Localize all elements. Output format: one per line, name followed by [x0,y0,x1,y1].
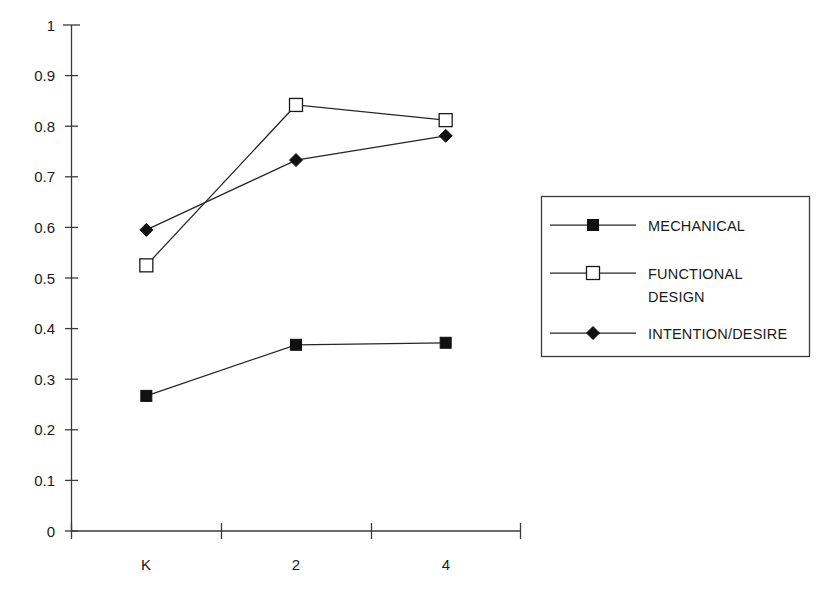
line-chart: 1 0.9 0.8 0.7 0.6 0.5 0.4 0.3 0.2 0.1 0 … [0,0,831,602]
legend-label-mechanical: MECHANICAL [648,218,745,234]
legend-item-intention-desire: INTENTION/DESIRE [550,326,787,342]
data-point-filled-square [141,390,152,401]
series-functional-design-line [146,105,445,265]
y-tick-label: 0.4 [34,320,55,337]
data-point-open-square [290,98,303,111]
x-tick-label: 4 [442,556,450,573]
y-tick-label: 0.5 [34,270,55,287]
x-axis-tick-labels: K 2 4 [141,556,450,573]
legend-label-intention-desire: INTENTION/DESIRE [648,326,787,342]
series-intention-desire [140,129,452,236]
open-square-icon [587,267,600,280]
legend-item-functional-design: FUNCTIONAL DESIGN [550,266,743,305]
legend-label-functional-design-line1: FUNCTIONAL [648,266,743,282]
y-tick-label: 1 [47,17,55,34]
series-intention-desire-line [146,136,445,230]
y-axis-tick-labels: 1 0.9 0.8 0.7 0.6 0.5 0.4 0.3 0.2 0.1 0 [34,17,55,540]
series-functional-design [140,98,452,271]
filled-diamond-icon [587,327,600,340]
y-tick-label: 0.7 [34,168,55,185]
series-mechanical-markers [141,337,451,401]
y-tick-label: 0.6 [34,219,55,236]
y-tick-label: 0.3 [34,371,55,388]
series-intention-desire-markers [140,129,452,236]
y-tick-label: 0.1 [34,472,55,489]
y-tick-label: 0.2 [34,421,55,438]
chart-legend: MECHANICAL FUNCTIONAL DESIGN INTENTION/D… [542,197,810,357]
data-point-open-square [439,114,452,127]
chart-canvas: 1 0.9 0.8 0.7 0.6 0.5 0.4 0.3 0.2 0.1 0 … [0,0,831,602]
data-point-filled-square [291,339,302,350]
x-tick-label: K [141,556,151,573]
data-point-filled-diamond [290,154,303,167]
filled-square-icon [588,220,599,231]
legend-label-functional-design-line2: DESIGN [648,289,705,305]
data-point-open-square [140,259,153,272]
series-mechanical [141,337,451,401]
data-point-filled-square [440,337,451,348]
x-tick-label: 2 [292,556,300,573]
series-functional-design-markers [140,98,452,271]
legend-item-mechanical: MECHANICAL [550,218,745,234]
y-tick-label: 0.8 [34,118,55,135]
data-point-filled-diamond [439,129,452,142]
y-tick-label: 0.9 [34,67,55,84]
y-tick-label: 0 [47,523,55,540]
data-point-filled-diamond [140,223,153,236]
